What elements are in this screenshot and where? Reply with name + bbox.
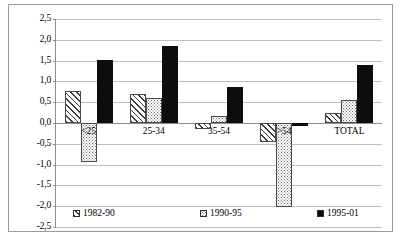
chart-frame: 2,52,01,51,00,50,0-0,5-1,0-1,5-2,0-2,5 <… <box>8 4 393 232</box>
bar-1982-90-25-34 <box>130 94 146 123</box>
y-axis: 2,52,01,51,00,50,0-0,5-1,0-1,5-2,0-2,5 <box>9 5 55 233</box>
legend-item-1990-95: 1990-95 <box>200 209 242 219</box>
bars-layer <box>56 19 382 227</box>
y-axis-tick-label: 2,0 <box>40 35 51 45</box>
x-axis-category-label: >54 <box>277 127 292 137</box>
bar-1982-90->54 <box>260 123 276 142</box>
legend-swatch-icon <box>317 210 324 217</box>
y-axis-tick-label: -2,0 <box>37 201 51 211</box>
bar-1982-90-TOTAL <box>325 113 341 123</box>
y-axis-tick-label: -2,5 <box>37 222 51 232</box>
legend-label: 1982-90 <box>83 209 115 219</box>
chart-legend: 1982-901990-951995-01 <box>55 209 382 223</box>
legend-label: 1990-95 <box>210 209 242 219</box>
x-axis-category-label: 25-34 <box>143 127 165 137</box>
bar-1995-01-<25 <box>97 60 113 123</box>
x-axis-category-label: TOTAL <box>334 127 364 137</box>
x-axis-category-label: 35-54 <box>208 127 230 137</box>
legend-label: 1995-01 <box>327 209 359 219</box>
legend-item-1995-01: 1995-01 <box>317 209 359 219</box>
bar-1990-95-TOTAL <box>341 100 357 123</box>
y-axis-tick-label: 1,5 <box>40 56 51 66</box>
y-axis-tick-label: -1,5 <box>37 181 51 191</box>
bar-1982-90-<25 <box>65 91 81 123</box>
legend-swatch-icon <box>73 210 80 217</box>
y-axis-tick-mark <box>53 227 56 228</box>
bar-1995-01-TOTAL <box>357 65 373 123</box>
bar-1995-01->54 <box>292 123 308 126</box>
y-axis-tick-label: 1,0 <box>40 77 51 87</box>
y-axis-tick-label: 0,5 <box>40 97 51 107</box>
bar-1990-95-25-34 <box>146 98 162 123</box>
legend-item-1982-90: 1982-90 <box>73 209 115 219</box>
bar-1995-01-35-54 <box>227 87 243 123</box>
y-axis-tick-label: 0,0 <box>40 118 51 128</box>
y-axis-tick-label: 2,5 <box>40 14 51 24</box>
gridline <box>56 227 382 228</box>
x-axis-category-label: <25 <box>81 127 96 137</box>
bar-1990-95-35-54 <box>211 116 227 123</box>
bar-1995-01-25-34 <box>162 46 178 123</box>
y-axis-tick-label: -0,5 <box>37 139 51 149</box>
plot-area: <2525-3435-54>54TOTAL <box>55 19 382 227</box>
legend-swatch-icon <box>200 210 207 217</box>
y-axis-tick-label: -1,0 <box>37 160 51 170</box>
